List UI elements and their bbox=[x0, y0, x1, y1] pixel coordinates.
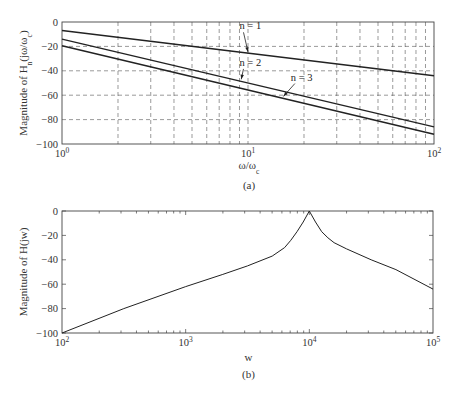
x-axis-label: ω/ωc bbox=[239, 159, 261, 176]
y-tick-label: −40 bbox=[42, 254, 58, 265]
x-tick-label: 104 bbox=[302, 335, 317, 349]
y-tick-label: −60 bbox=[42, 279, 58, 290]
x-tick-label: 103 bbox=[179, 335, 194, 349]
x-tick-label: 101 bbox=[241, 146, 256, 160]
y-tick-label: −20 bbox=[42, 41, 58, 52]
panel-caption: (a) bbox=[243, 179, 256, 192]
annotation: n = 1 bbox=[239, 20, 261, 52]
y-tick-label: 0 bbox=[53, 206, 58, 217]
x-axis-label: w bbox=[245, 351, 253, 363]
y-tick-label: −40 bbox=[42, 65, 58, 76]
series-line bbox=[62, 211, 433, 333]
x-tick-label: 102 bbox=[427, 146, 442, 160]
y-tick-label: −80 bbox=[42, 114, 58, 125]
y-tick-label: −20 bbox=[42, 230, 58, 241]
chart-panel-a: 0−20−40−60−80−100100101102ω/ωcMagnitude … bbox=[17, 17, 441, 193]
y-tick-label: 0 bbox=[53, 17, 58, 28]
y-tick-label: −60 bbox=[42, 90, 58, 101]
chart-panel-b: 0−20−40−60−80−100102103104105wMagnitude … bbox=[17, 206, 440, 382]
annotation: n = 2 bbox=[239, 57, 261, 79]
y-axis-label: Magnitude of H(jw) bbox=[17, 227, 30, 316]
figure: 0−20−40−60−80−100100101102ω/ωcMagnitude … bbox=[0, 0, 456, 396]
annotation-label: n = 3 bbox=[291, 72, 313, 83]
plot-frame bbox=[62, 211, 433, 333]
x-tick-label: 102 bbox=[55, 335, 70, 349]
annotation-label: n = 1 bbox=[239, 20, 261, 31]
y-axis-label: Magnitude of Hn(jω/ωc) bbox=[17, 30, 34, 136]
x-tick-label: 100 bbox=[55, 146, 70, 160]
annotation-label: n = 2 bbox=[239, 57, 261, 68]
panel-caption: (b) bbox=[242, 368, 255, 381]
x-tick-label: 105 bbox=[426, 335, 441, 349]
y-tick-label: −80 bbox=[42, 303, 58, 314]
grid bbox=[62, 211, 433, 333]
